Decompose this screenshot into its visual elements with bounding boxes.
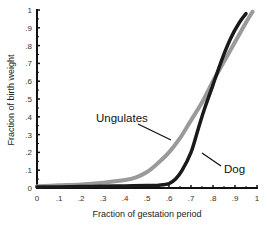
x-tick-label: .8 (210, 194, 217, 203)
x-tick-label: 1 (255, 194, 260, 203)
x-tick-label: .6 (166, 194, 173, 203)
y-tick-label: .3 (25, 131, 32, 140)
y-tick-label: 1 (28, 6, 33, 15)
x-tick-label: .9 (232, 194, 239, 203)
ungulates-label: Ungulates (96, 112, 148, 124)
y-axis-title: Fraction of birth weight (6, 54, 16, 146)
dog-label: Dog (224, 163, 245, 175)
growth-chart: 0.1.2.3.4.5.6.7.8.91 0.1.2.3.4.5.6.7.8.9… (0, 0, 267, 231)
y-tick-label: .9 (25, 24, 32, 33)
y-tick-label: .6 (25, 77, 32, 86)
y-tick-label: .5 (25, 95, 32, 104)
x-tick-label: .3 (100, 194, 107, 203)
y-tick-label: .2 (25, 148, 32, 157)
x-tick-label: .7 (188, 194, 195, 203)
x-tick-label: .1 (56, 194, 63, 203)
y-tick-label: .8 (25, 42, 32, 51)
y-tick-label: .4 (25, 113, 32, 122)
y-tick-label: .1 (25, 166, 32, 175)
x-tick-label: .4 (122, 194, 129, 203)
x-tick-label: .5 (144, 194, 151, 203)
ungulates-curve (37, 12, 253, 186)
x-tick-label: .2 (78, 194, 85, 203)
y-tick-label: 0 (28, 184, 33, 193)
y-tick-label: .7 (25, 59, 32, 68)
dog-pointer-line (202, 153, 221, 166)
x-axis-title: Fraction of gestation period (92, 209, 201, 219)
ungulates-pointer-line (138, 124, 171, 140)
x-tick-label: 0 (35, 194, 40, 203)
